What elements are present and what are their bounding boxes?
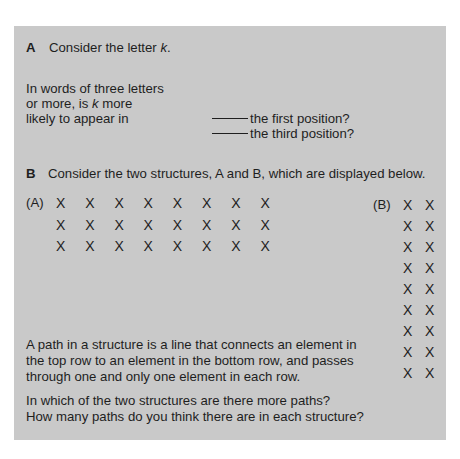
- element-x: X: [425, 365, 434, 381]
- option-third-position[interactable]: the third position?: [212, 126, 354, 142]
- element-x: X: [425, 281, 434, 297]
- element-x: X: [173, 217, 182, 233]
- element-x: X: [144, 195, 153, 211]
- element-x: X: [231, 238, 240, 254]
- element-x: X: [403, 260, 412, 276]
- element-x: X: [260, 217, 269, 233]
- structure-a-label: (A): [26, 195, 44, 211]
- element-x: X: [425, 323, 434, 339]
- element-x: X: [260, 195, 269, 211]
- element-x: X: [114, 195, 123, 211]
- element-x: X: [173, 238, 182, 254]
- element-x: X: [425, 260, 434, 276]
- section-b-intro: Consider the two structures, A and B, wh…: [48, 166, 426, 182]
- element-x: X: [114, 238, 123, 254]
- element-x: X: [231, 217, 240, 233]
- element-x: X: [56, 217, 65, 233]
- element-x: X: [114, 217, 123, 233]
- final-question-line-1: In which of the two structures are there…: [26, 393, 330, 409]
- element-x: X: [260, 238, 269, 254]
- question-line-1: In words of three letters: [26, 81, 164, 97]
- element-x: X: [144, 238, 153, 254]
- element-x: X: [403, 281, 412, 297]
- element-x: X: [173, 195, 182, 211]
- final-question-line-2: How many paths do you think there are in…: [26, 409, 364, 425]
- element-x: X: [403, 239, 412, 255]
- structure-b-label: (B): [373, 197, 391, 213]
- question-line-2: or more, is k more: [26, 96, 132, 112]
- answer-blank[interactable]: [212, 118, 248, 119]
- element-x: X: [425, 197, 434, 213]
- element-x: X: [231, 195, 240, 211]
- element-x: X: [425, 239, 434, 255]
- element-x: X: [403, 365, 412, 381]
- section-b-label: B: [26, 166, 36, 182]
- element-x: X: [56, 238, 65, 254]
- element-x: X: [202, 238, 211, 254]
- question-line-3: likely to appear in: [26, 111, 129, 127]
- element-x: X: [403, 197, 412, 213]
- element-x: X: [425, 302, 434, 318]
- element-x: X: [202, 195, 211, 211]
- section-a-label: A: [26, 40, 36, 56]
- answer-blank[interactable]: [212, 133, 248, 134]
- element-x: X: [403, 302, 412, 318]
- element-x: X: [403, 323, 412, 339]
- element-x: X: [56, 195, 65, 211]
- option-first-position[interactable]: the first position?: [212, 111, 350, 127]
- element-x: X: [202, 217, 211, 233]
- definition-line-2: the top row to an element in the bottom …: [26, 353, 354, 369]
- element-x: X: [403, 344, 412, 360]
- definition-line-3: through one and only one element in each…: [26, 369, 300, 385]
- element-x: X: [403, 218, 412, 234]
- element-x: X: [425, 218, 434, 234]
- definition-line-1: A path in a structure is a line that con…: [26, 337, 357, 353]
- element-x: X: [144, 217, 153, 233]
- element-x: X: [85, 217, 94, 233]
- element-x: X: [85, 238, 94, 254]
- section-a-intro: Consider the letter k.: [49, 40, 171, 56]
- element-x: X: [85, 195, 94, 211]
- element-x: X: [425, 344, 434, 360]
